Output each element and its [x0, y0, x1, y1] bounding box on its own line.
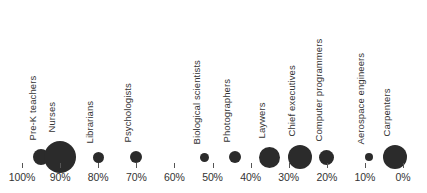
- x-axis-tick-label: 80%: [88, 172, 109, 183]
- category-label: Laywers: [256, 102, 266, 138]
- x-axis-tick: [289, 163, 290, 168]
- x-axis-tick-label: 30%: [278, 172, 299, 183]
- x-axis-tick: [136, 163, 137, 168]
- category-label: Nurses: [47, 102, 57, 133]
- bubble-chart: Pre-K teachersNursesLibrariansPsychologi…: [0, 0, 427, 193]
- x-axis-tick-label: 90%: [50, 172, 71, 183]
- x-axis-tick-label: 50%: [202, 172, 223, 183]
- bubble-point: [229, 151, 241, 163]
- x-axis-tick: [98, 163, 99, 168]
- category-label: Librarians: [85, 100, 95, 143]
- x-axis-tick: [60, 163, 61, 168]
- x-axis-tick: [403, 163, 404, 168]
- bubble-point: [365, 153, 373, 161]
- category-label: Aerospace engineers: [355, 53, 365, 145]
- category-label: Computer programmers: [313, 38, 323, 141]
- x-axis-tick: [174, 163, 175, 168]
- x-axis-tick: [327, 163, 328, 168]
- x-axis-tick: [365, 163, 366, 168]
- category-label: Chief executives: [287, 65, 297, 136]
- x-axis-tick-label: 60%: [164, 172, 185, 183]
- x-axis-tick-label: 100%: [9, 172, 35, 183]
- plot-area: Pre-K teachersNursesLibrariansPsychologi…: [0, 0, 427, 193]
- bubble-point: [259, 147, 280, 168]
- x-axis-tick-label: 40%: [240, 172, 261, 183]
- bubble-point: [288, 145, 312, 169]
- bubble-point: [93, 152, 104, 163]
- category-label: Psychologists: [123, 83, 133, 142]
- x-axis-tick-label: 10%: [355, 172, 376, 183]
- x-axis-tick: [251, 163, 252, 168]
- category-label: Carpenters: [382, 89, 392, 137]
- x-axis-tick: [213, 163, 214, 168]
- bubble-point: [200, 153, 209, 162]
- bubble-point: [130, 151, 142, 163]
- category-label: Pre-K teachers: [28, 76, 38, 141]
- x-axis-tick-label: 0%: [396, 172, 411, 183]
- x-axis-tick-label: 20%: [316, 172, 337, 183]
- x-axis-tick-label: 70%: [126, 172, 147, 183]
- bubble-point: [44, 141, 76, 173]
- category-label: Biological scientists: [191, 60, 201, 144]
- x-axis-tick: [22, 163, 23, 168]
- category-label: Photographers: [222, 79, 232, 143]
